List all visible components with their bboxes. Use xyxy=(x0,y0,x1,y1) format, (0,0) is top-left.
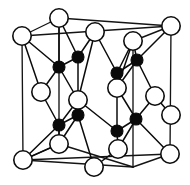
filled-atom-tetra-lower-right-inner xyxy=(130,113,142,125)
filled-atom-tetra-upper-left-outer xyxy=(53,61,65,73)
open-atom-face-center-front xyxy=(69,91,87,109)
open-atom-face-left-mid xyxy=(32,83,50,101)
open-atom-corner-back-top-left xyxy=(13,27,31,45)
open-atom-face-right-mid xyxy=(146,87,164,105)
open-atom-face-top-front-left xyxy=(86,23,104,41)
filled-atom-tetra-lower-left-inner xyxy=(72,109,84,121)
filled-atom-tetra-lower-right-outer xyxy=(111,125,123,137)
filled-atom-tetra-lower-left-outer xyxy=(53,119,65,131)
open-atom-corner-front-bottom-left xyxy=(14,151,32,169)
open-atom-face-bottom-left-mid xyxy=(50,135,68,153)
open-atom-face-interior-right xyxy=(108,79,126,97)
filled-atom-tetra-upper-right-inner xyxy=(131,54,143,66)
filled-atom-tetra-upper-left-inner xyxy=(72,51,84,63)
crystal-structure-figure xyxy=(0,0,190,185)
filled-atom-tetra-upper-right-outer xyxy=(111,67,123,79)
open-atom-corner-front-bottom-right xyxy=(161,145,179,163)
open-atom-corner-front-bottom-mid xyxy=(85,158,103,176)
open-atom-corner-top-back-mid xyxy=(50,9,68,27)
open-atom-face-top-right xyxy=(124,32,142,50)
open-atom-corner-back-top-right xyxy=(162,17,180,35)
lattice-diagram xyxy=(0,0,190,185)
open-atom-face-bottom-center xyxy=(109,140,127,158)
open-atom-corner-back-bottom-right xyxy=(162,106,180,124)
